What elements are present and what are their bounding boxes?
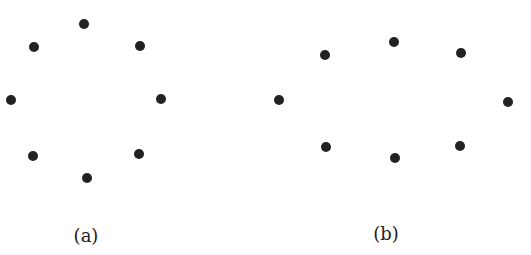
panel-a-point-0	[79, 19, 89, 29]
panel-b	[0, 0, 531, 255]
panel-b-point-1	[320, 50, 330, 60]
panel-a-point-7	[82, 173, 92, 183]
panel-b-point-7	[390, 153, 400, 163]
panel-a-label: (a)	[74, 225, 99, 246]
panel-a-point-2	[135, 41, 145, 51]
panel-a-point-5	[28, 151, 38, 161]
panel-b-point-4	[503, 97, 513, 107]
panel-a-point-6	[134, 149, 144, 159]
panel-b-point-3	[274, 95, 284, 105]
panel-a-point-1	[29, 42, 39, 52]
panel-b-point-5	[321, 142, 331, 152]
panel-a-point-4	[156, 94, 166, 104]
panel-b-point-0	[389, 37, 399, 47]
panel-b-label: (b)	[373, 223, 399, 244]
panel-a-point-3	[6, 95, 16, 105]
panel-b-point-6	[455, 141, 465, 151]
panel-b-point-2	[456, 48, 466, 58]
